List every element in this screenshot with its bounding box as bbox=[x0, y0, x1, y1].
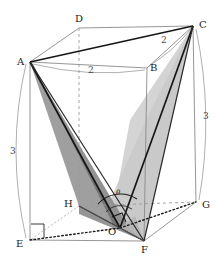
line-a-c-bold bbox=[30, 26, 193, 62]
vertex-label-o: O bbox=[108, 227, 116, 237]
edge-e-f bbox=[30, 240, 144, 241]
edge-c-g bbox=[193, 26, 196, 202]
theta-label: θ bbox=[116, 190, 120, 197]
measure-label-cg: 3 bbox=[203, 112, 209, 121]
right-angle-square-at-e bbox=[31, 224, 44, 238]
measure-label-ab: 2 bbox=[88, 66, 94, 75]
vertex-label-f: F bbox=[141, 245, 148, 255]
measure-label-bc: 2 bbox=[161, 36, 167, 45]
vertex-label-h: H bbox=[64, 199, 73, 209]
vertex-label-b: B bbox=[150, 63, 157, 73]
measure-label-ae: 3 bbox=[10, 147, 16, 156]
vertex-label-c: C bbox=[199, 20, 207, 30]
edge-d-c bbox=[79, 26, 193, 28]
vertex-label-a: A bbox=[17, 57, 24, 67]
vertex-label-e: E bbox=[16, 239, 23, 249]
geometry-figure: A B C D E F G H O 2 2 3 3 θ bbox=[0, 0, 221, 272]
vertex-label-g: G bbox=[202, 200, 210, 210]
measure-arc-ae bbox=[16, 64, 26, 238]
vertex-label-d: D bbox=[75, 14, 83, 24]
line-a-o-bold bbox=[30, 62, 120, 228]
